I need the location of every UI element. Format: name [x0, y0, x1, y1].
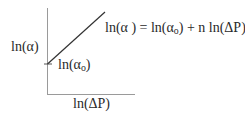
- y-axis-label-base: ln(α: [11, 39, 34, 54]
- equation-rhs: ) + n ln(ΔP): [179, 20, 245, 35]
- intercept-label-pre: ln(α: [58, 57, 81, 72]
- intercept-label: ln(αo): [58, 58, 90, 72]
- plot-area: [0, 0, 245, 114]
- equation: ln(α ) = ln(αo) + n ln(ΔP): [105, 21, 245, 35]
- equation-lhs: ln(α ) = ln(α: [105, 20, 174, 35]
- y-axis-label: ln(α): [11, 40, 39, 54]
- x-axis-label-text: ln(ΔP): [73, 96, 110, 111]
- y-axis-label-close: ): [34, 39, 39, 54]
- intercept-label-post: ): [86, 57, 91, 72]
- x-axis-label: ln(ΔP): [73, 97, 110, 111]
